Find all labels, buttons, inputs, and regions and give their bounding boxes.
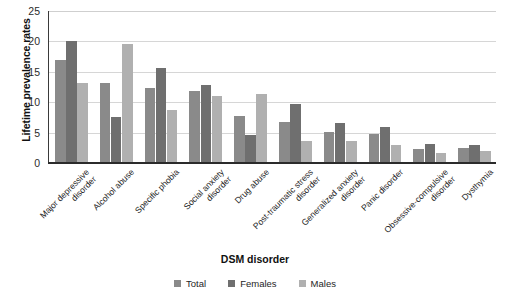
bar-group [324,11,357,163]
legend-item-total[interactable]: Total [174,278,206,289]
bar-group [100,11,133,163]
bar-group [189,11,222,163]
bar-females [380,127,391,163]
bar-females [335,123,346,163]
bar-group [413,11,446,163]
chart-legend: TotalFemalesMales [0,278,510,289]
plot-area [48,11,496,163]
bar-group [458,11,491,163]
bar-total [413,149,424,163]
bar-males [301,141,312,163]
bar-total [458,148,469,163]
legend-item-females[interactable]: Females [228,278,276,289]
bar-group [369,11,402,163]
bar-total [234,116,245,163]
bar-total [189,91,200,163]
y-tick-label-20: 20 [10,36,40,46]
y-tick-label-15: 15 [10,67,40,77]
bar-total [145,88,156,163]
bar-females [66,41,77,163]
bar-females [156,68,167,163]
bar-females [245,135,256,163]
bar-males [122,44,133,163]
x-axis-tick-labels: Major depressivedisorderAlcohol abuseSpe… [0,165,510,250]
x-axis-title: DSM disorder [0,253,510,265]
bar-males [346,141,357,163]
bar-females [425,144,436,163]
bar-group [55,11,88,163]
legend-label-total: Total [186,278,206,289]
legend-label-females: Females [240,278,276,289]
bar-females [469,145,480,163]
legend-swatch-females [228,280,235,287]
bar-chart: Lifetime prevalence rates 0510152025 Maj… [0,0,510,300]
bar-females [111,117,122,163]
y-tick-label-5: 5 [10,128,40,138]
bar-males [212,96,223,163]
bar-males [167,110,178,164]
legend-swatch-males [299,280,306,287]
y-tick-label-10: 10 [10,97,40,107]
bar-total [100,83,111,163]
y-tick-label-25: 25 [10,6,40,16]
bar-males [77,83,88,163]
bar-females [201,85,212,163]
bar-total [369,134,380,163]
bar-group [145,11,178,163]
y-axis-tick-labels: 0510152025 [0,11,46,163]
bar-females [290,104,301,163]
bar-males [391,145,402,163]
bar-males [256,94,267,163]
bar-total [324,132,335,163]
bar-total [55,60,66,163]
x-axis-line [48,162,496,164]
legend-label-males: Males [311,278,336,289]
bar-group [234,11,267,163]
x-tick-label-line: Major depressive [17,167,92,242]
bar-group [279,11,312,163]
legend-swatch-total [174,280,181,287]
bar-total [279,122,290,163]
bars-layer [49,11,496,163]
legend-item-males[interactable]: Males [299,278,336,289]
